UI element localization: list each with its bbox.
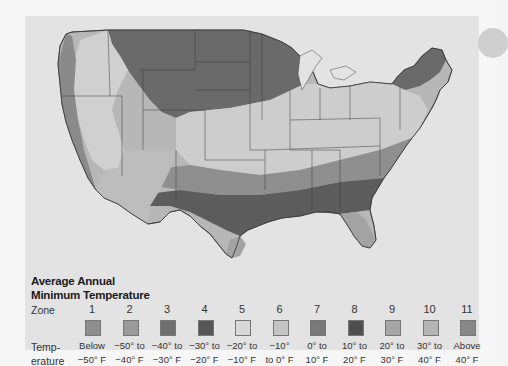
- temp-range-line2: 10° F: [297, 353, 337, 366]
- zone-color-swatch: [348, 320, 364, 336]
- temp-range-line2: −10° F: [222, 353, 262, 366]
- temp-range-line1: −50° to: [110, 339, 150, 353]
- temp-range-line2: −20° F: [185, 353, 225, 366]
- zone-number: 4: [185, 303, 225, 315]
- temp-range-line2: 40° F: [410, 353, 450, 366]
- temperature-label-line2: erature: [31, 354, 64, 366]
- zone-color-swatch: [85, 320, 101, 336]
- zone-temperature-range: Above40° F: [447, 339, 487, 366]
- temp-range-line1: Below: [72, 339, 112, 353]
- zone-number: 5: [222, 303, 262, 315]
- zone-temperature-range: 10° to20° F: [335, 339, 375, 366]
- zone-color-swatch: [460, 320, 476, 336]
- temp-range-line1: Above: [447, 339, 487, 353]
- zone-temperature-range: −10°to 0° F: [260, 339, 300, 366]
- zone-color-swatch: [385, 320, 401, 336]
- zone-color-swatch: [310, 320, 326, 336]
- legend-title-line1: Average Annual: [31, 275, 115, 287]
- zone-color-swatch: [235, 320, 251, 336]
- zone-color-swatch: [198, 320, 214, 336]
- zone-temperature-range: 0° to10° F: [297, 339, 337, 366]
- zone-color-swatch: [423, 320, 439, 336]
- temp-range-line1: 30° to: [410, 339, 450, 353]
- zone-temperature-range: Below−50° F: [72, 339, 112, 366]
- zone-number: 10: [410, 303, 450, 315]
- temp-range-line2: 40° F: [447, 353, 487, 366]
- temp-range-line1: −10°: [260, 339, 300, 353]
- zone-temperature-range: 30° to40° F: [410, 339, 450, 366]
- zone-number: 6: [260, 303, 300, 315]
- temp-range-line1: 0° to: [297, 339, 337, 353]
- zone-color-swatch: [160, 320, 176, 336]
- zone-number: 8: [335, 303, 375, 315]
- temp-range-line1: −20° to: [222, 339, 262, 353]
- zone-number: 11: [447, 303, 487, 315]
- zone-temperature-range: −20° to−10° F: [222, 339, 262, 366]
- zone-temperature-range: 20° to30° F: [372, 339, 412, 366]
- temp-range-line2: −30° F: [147, 353, 187, 366]
- zone-color-swatch: [273, 320, 289, 336]
- temp-range-line2: to 0° F: [260, 353, 300, 366]
- temp-range-line1: 20° to: [372, 339, 412, 353]
- temperature-label-line1: Temp-: [31, 340, 64, 354]
- temperature-row-label: Temp- erature: [31, 342, 64, 366]
- temp-range-line2: −50° F: [72, 353, 112, 366]
- zone-temperature-range: −50° to−40° F: [110, 339, 150, 366]
- temp-range-line2: 30° F: [372, 353, 412, 366]
- zone-temperature-range: −40° to−30° F: [147, 339, 187, 366]
- zone-number: 7: [297, 303, 337, 315]
- temp-range-line2: −40° F: [110, 353, 150, 366]
- temp-range-line1: −30° to: [185, 339, 225, 353]
- zone-row-label: Zone: [31, 304, 55, 316]
- zone-number: 2: [110, 303, 150, 315]
- zone-number: 1: [72, 303, 112, 315]
- legend-title-line2: Minimum Temperature: [31, 289, 150, 301]
- zone-temperature-range: −30° to−20° F: [185, 339, 225, 366]
- zone-number: 9: [372, 303, 412, 315]
- temp-range-line1: −40° to: [147, 339, 187, 353]
- zone-color-swatch: [123, 320, 139, 336]
- zone-number: 3: [147, 303, 187, 315]
- temp-range-line2: 20° F: [335, 353, 375, 366]
- temp-range-line1: 10° to: [335, 339, 375, 353]
